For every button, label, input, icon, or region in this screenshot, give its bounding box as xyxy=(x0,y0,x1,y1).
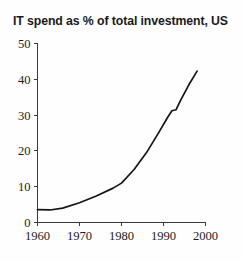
y-tick-label: 30 xyxy=(18,109,31,123)
x-tick-label: 1980 xyxy=(109,229,134,243)
x-tick-label: 1990 xyxy=(151,229,176,243)
y-tick-label: 40 xyxy=(18,73,31,87)
y-tick-label: 20 xyxy=(18,144,31,158)
y-tick-label: 10 xyxy=(18,180,31,194)
chart-figure: IT spend as % of total investment, US 01… xyxy=(0,0,242,261)
chart-axes xyxy=(38,44,206,223)
x-axis-tick-labels: 19601970198019902000 xyxy=(25,229,218,243)
y-axis-tick-labels: 01020304050 xyxy=(18,37,31,230)
line-chart-plot: 01020304050 19601970198019902000 xyxy=(0,0,242,261)
data-series-line xyxy=(38,71,198,210)
x-tick-label: 1960 xyxy=(25,229,50,243)
y-tick-label: 50 xyxy=(18,37,31,51)
x-tick-label: 1970 xyxy=(67,229,92,243)
x-tick-label: 2000 xyxy=(193,229,218,243)
